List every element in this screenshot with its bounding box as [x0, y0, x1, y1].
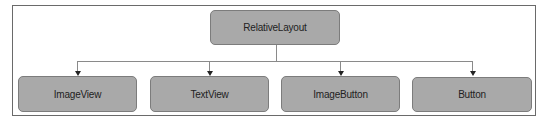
node-label: TextView [190, 89, 228, 100]
connector-bus [77, 61, 473, 62]
node-imageview: ImageView [18, 76, 137, 112]
node-label: ImageView [54, 89, 102, 100]
connector-drop-button [472, 61, 473, 71]
connector-drop-textview [209, 61, 210, 71]
node-imagebutton: ImageButton [281, 76, 400, 112]
node-relativelayout: RelativeLayout [210, 10, 340, 45]
arrow-down-icon [470, 71, 476, 76]
node-label: Button [458, 89, 486, 100]
connector-drop-imageview [77, 61, 78, 71]
node-label: ImageButton [313, 89, 368, 100]
connector-drop-imagebutton [340, 61, 341, 71]
node-button: Button [412, 77, 532, 112]
node-label: RelativeLayout [243, 22, 306, 33]
node-textview: TextView [150, 76, 269, 112]
connector-trunk [276, 45, 277, 61]
